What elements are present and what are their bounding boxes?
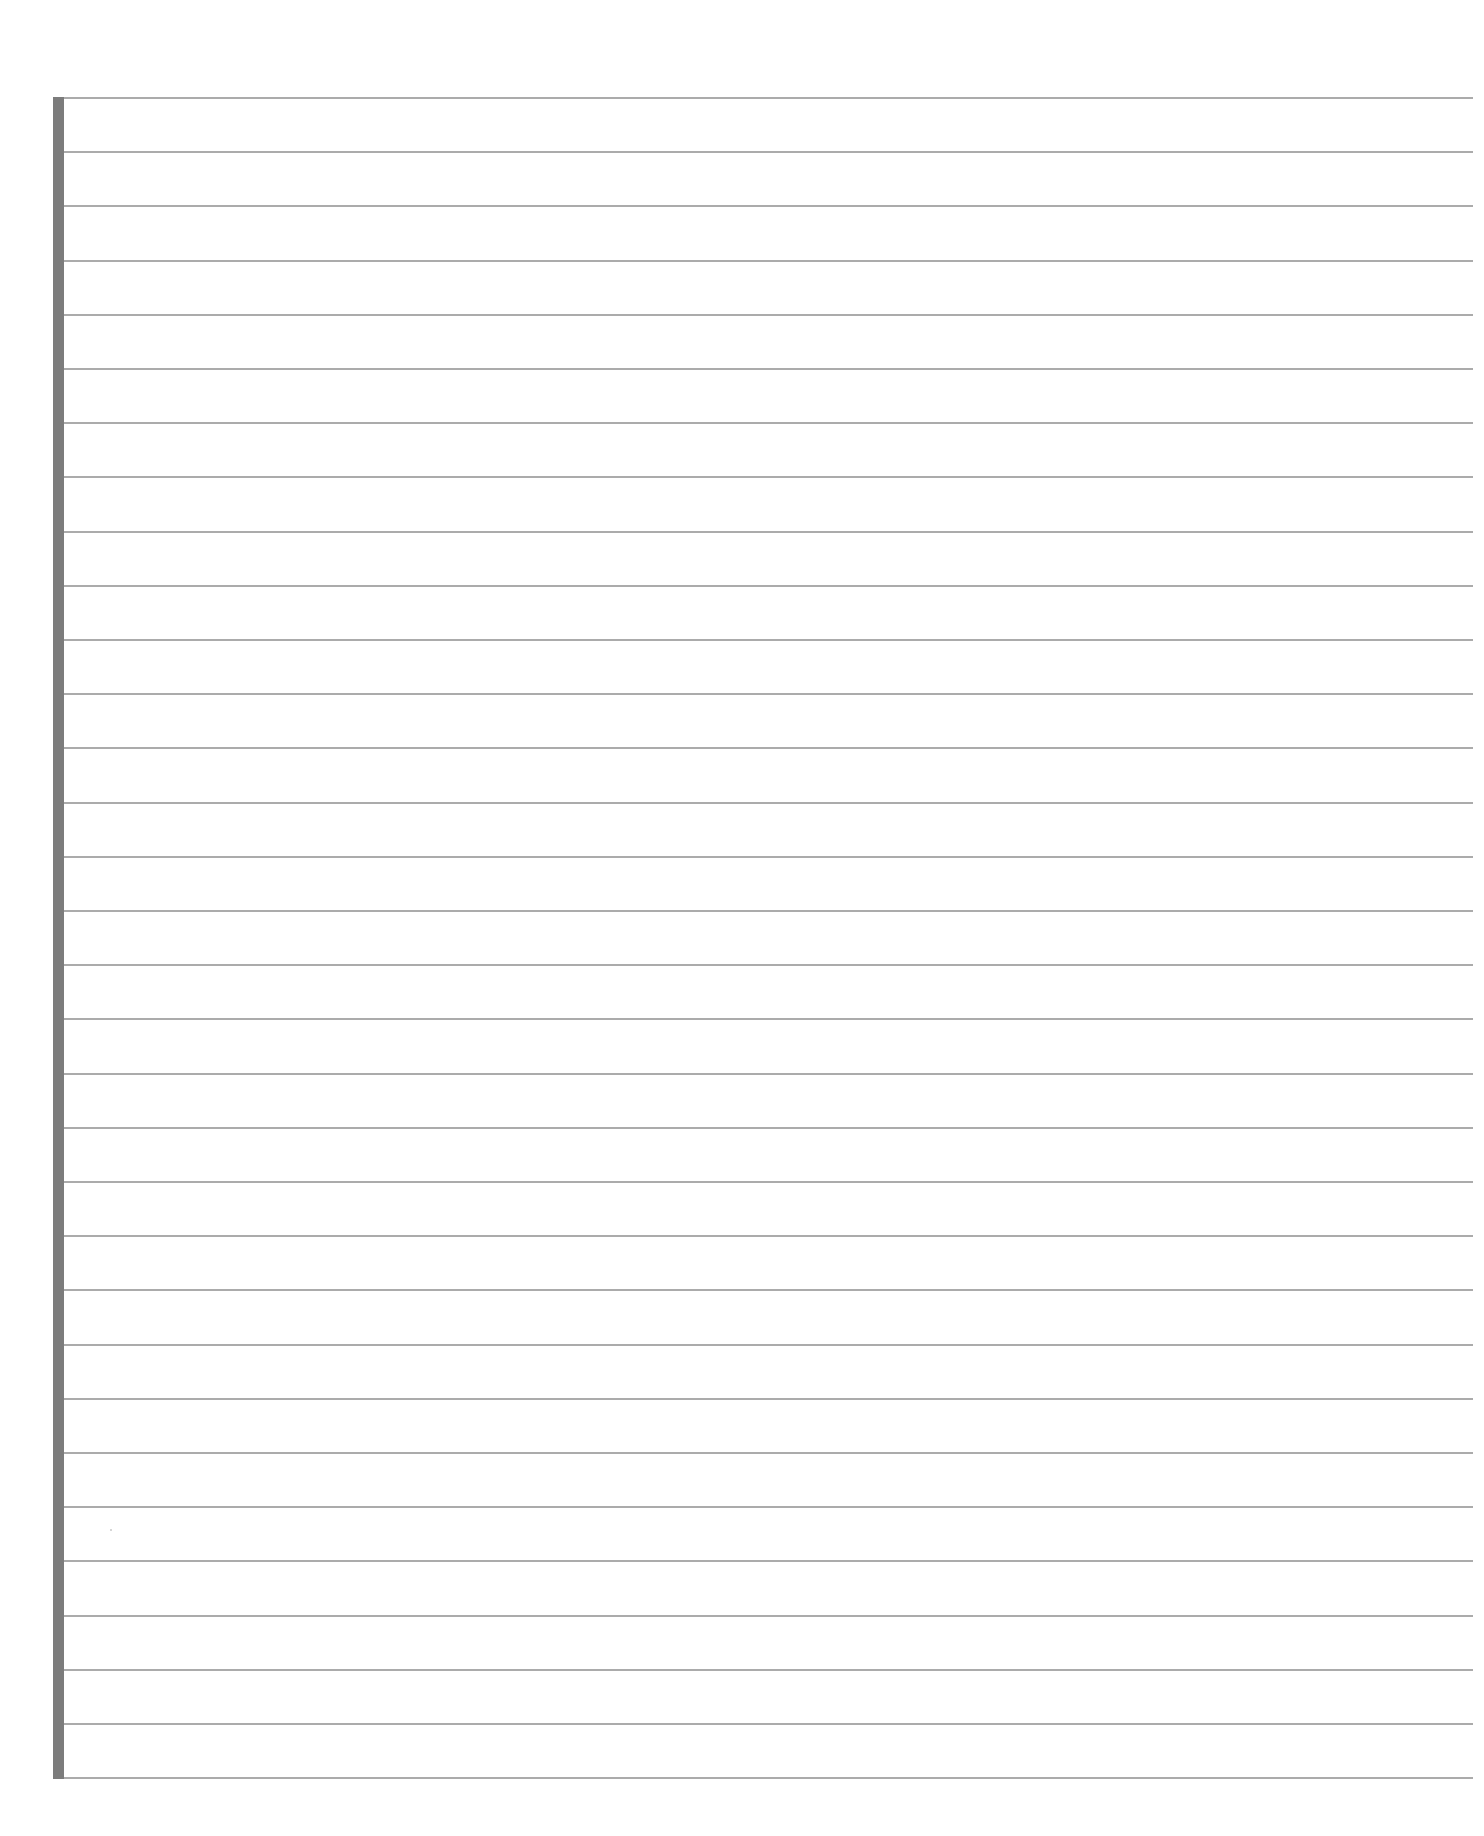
ruled-line [64,1452,1473,1454]
ruled-line [64,1669,1473,1671]
ruled-line [64,802,1473,804]
ruled-line [64,693,1473,695]
ruled-line [64,1127,1473,1129]
ruled-line [64,964,1473,966]
ruled-line [64,1723,1473,1725]
ruled-line [64,151,1473,153]
ruled-line [64,639,1473,641]
ruled-line [64,856,1473,858]
ruled-line [64,1181,1473,1183]
lined-paper-page [0,0,1484,1836]
ruled-line [64,585,1473,587]
ruled-line [64,1506,1473,1508]
scan-speck [110,1529,112,1531]
ruled-line [64,476,1473,478]
ruled-line [64,260,1473,262]
ruled-line [64,1018,1473,1020]
ruled-line [64,1289,1473,1291]
ruled-line [64,910,1473,912]
left-margin-bar [53,97,64,1779]
ruled-line [64,1777,1473,1779]
ruled-line [64,747,1473,749]
ruled-line [64,1615,1473,1617]
ruled-line [64,1344,1473,1346]
ruled-line [64,422,1473,424]
ruled-line [64,1235,1473,1237]
ruled-line [64,1560,1473,1562]
ruled-line [64,1398,1473,1400]
ruled-line [64,368,1473,370]
ruled-line [64,531,1473,533]
ruled-line [64,1073,1473,1075]
ruled-line [64,205,1473,207]
ruled-lines-area [64,97,1473,1779]
ruled-line [64,97,1473,99]
ruled-line [64,314,1473,316]
